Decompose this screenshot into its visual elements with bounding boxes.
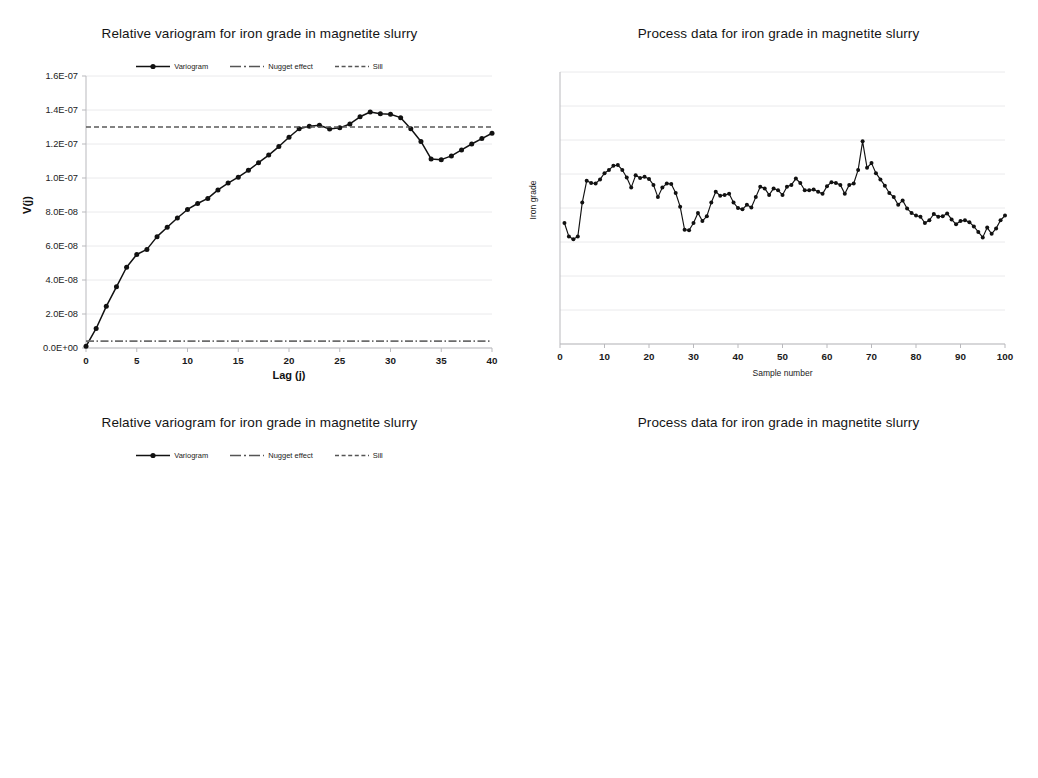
panel-bottom-left: Relative variogram for iron grade in mag… xyxy=(0,389,519,778)
svg-text:50: 50 xyxy=(777,351,788,362)
svg-text:40: 40 xyxy=(733,351,744,362)
svg-text:20: 20 xyxy=(284,355,295,366)
svg-text:5: 5 xyxy=(134,355,140,366)
svg-text:30: 30 xyxy=(385,355,396,366)
panel-top-right: Process data for iron grade in magnetite… xyxy=(519,0,1038,389)
svg-text:30: 30 xyxy=(688,351,699,362)
svg-text:2.0E-08: 2.0E-08 xyxy=(45,309,78,319)
svg-text:4.0E-08: 4.0E-08 xyxy=(45,275,78,285)
plot-area-bottom-right: 0102030405060708090100Sample numberIron … xyxy=(519,389,1038,778)
svg-text:V(j): V(j) xyxy=(21,196,33,214)
svg-text:1.0E-07: 1.0E-07 xyxy=(45,173,78,183)
svg-text:Sample number: Sample number xyxy=(752,368,812,378)
svg-text:1.4E-07: 1.4E-07 xyxy=(45,105,78,115)
panel-top-left: Relative variogram for iron grade in mag… xyxy=(0,0,519,389)
svg-text:15: 15 xyxy=(233,355,244,366)
svg-text:90: 90 xyxy=(955,351,966,362)
svg-text:60: 60 xyxy=(822,351,833,362)
svg-text:8.0E-08: 8.0E-08 xyxy=(45,207,78,217)
plot-area-bottom-left: 0.0E+002.0E-084.0E-086.0E-088.0E-081.0E-… xyxy=(0,389,519,778)
svg-text:20: 20 xyxy=(644,351,655,362)
svg-text:25: 25 xyxy=(334,355,345,366)
svg-text:100: 100 xyxy=(997,351,1014,362)
svg-text:40: 40 xyxy=(487,355,498,366)
figure-grid: Relative variogram for iron grade in mag… xyxy=(0,0,1038,778)
svg-text:1.6E-07: 1.6E-07 xyxy=(45,71,78,81)
svg-text:Lag (j): Lag (j) xyxy=(273,369,306,381)
svg-text:35: 35 xyxy=(436,355,447,366)
svg-text:Iron grade: Iron grade xyxy=(528,180,538,219)
svg-text:10: 10 xyxy=(182,355,193,366)
svg-text:0: 0 xyxy=(557,351,563,362)
plot-area-top-left: 0.0E+002.0E-084.0E-086.0E-088.0E-081.0E-… xyxy=(0,0,519,389)
svg-text:0: 0 xyxy=(83,355,89,366)
svg-text:1.2E-07: 1.2E-07 xyxy=(45,139,78,149)
svg-text:80: 80 xyxy=(911,351,922,362)
svg-text:0.0E+00: 0.0E+00 xyxy=(43,343,78,353)
svg-text:6.0E-08: 6.0E-08 xyxy=(45,241,78,251)
plot-area-top-right: 0102030405060708090100Sample numberIron … xyxy=(519,0,1038,389)
svg-text:70: 70 xyxy=(866,351,877,362)
svg-text:10: 10 xyxy=(599,351,610,362)
panel-bottom-right: Process data for iron grade in magnetite… xyxy=(519,389,1038,778)
